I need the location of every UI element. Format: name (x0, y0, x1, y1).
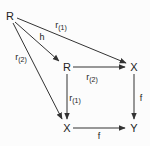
label-h: h (39, 33, 44, 42)
node-X-top: X (130, 62, 137, 73)
node-X-bottom: X (63, 123, 70, 134)
label-r2-middle: r(2) (86, 73, 98, 84)
arrow-r1-R0-X1 (17, 18, 126, 63)
label-r2-left: r(2) (15, 53, 27, 64)
arrow-r2-R0-X2 (13, 23, 62, 119)
label-r1-middle: r(1) (69, 94, 81, 105)
label-f-bottom: f (98, 132, 101, 141)
node-Y: Y (130, 123, 137, 134)
label-f-right: f (140, 94, 143, 103)
arrows-layer (0, 0, 150, 146)
commutative-diagram: R R X X Y r(1) h r(2) r(2) r(1) f f (0, 0, 150, 146)
node-R-source: R (6, 11, 14, 22)
node-R-middle: R (63, 62, 71, 73)
label-r1-top: r(1) (55, 21, 67, 32)
